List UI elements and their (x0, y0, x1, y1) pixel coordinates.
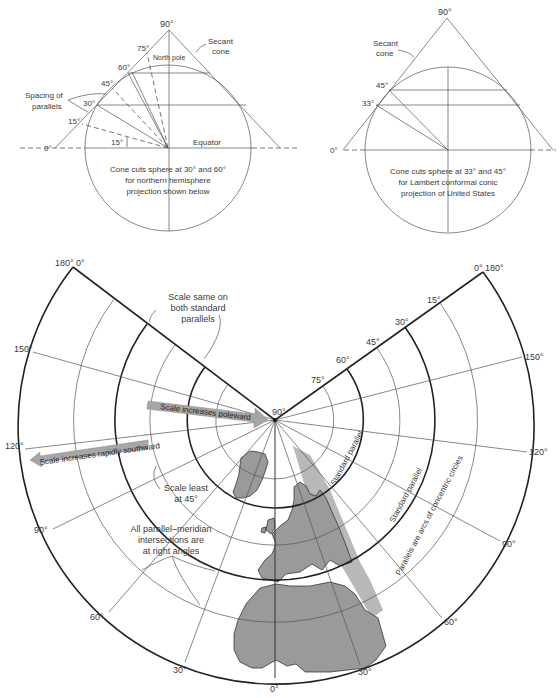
label-90: 90° (438, 7, 452, 17)
caption-line-1: Cone cuts sphere at 30° and 60° (110, 165, 226, 174)
leader-scale-least (154, 466, 160, 489)
radius-30 (97, 105, 168, 148)
radius-60 (128, 73, 168, 148)
label-0: 0° (44, 144, 52, 153)
radius-60b (132, 72, 168, 148)
annotation-right-angles-2: intersections are (138, 535, 204, 545)
parallel-label-45: 45° (366, 337, 380, 347)
secant-cone-diagram-northern-hemisphere: 90° 75° 60° 45° 30° 15° 0° 15° North pol… (20, 19, 300, 231)
conic-projection-figure: 90° 75° 60° 45° 30° 15° 0° 15° North pol… (0, 0, 560, 698)
meridian-label-0: 0° (270, 684, 279, 694)
annotation-scale-least-1: Scale least (164, 483, 209, 493)
annotation-right-angles-3: at right angles (143, 546, 200, 556)
meridian-label-30-right: 30° (358, 667, 372, 677)
pole-point (273, 418, 277, 422)
radius-75 (147, 53, 168, 148)
conic-projection-map: Scale increases poleward Scale increases… (5, 258, 548, 694)
parallel-label-75: 75° (311, 375, 325, 385)
caption-line-2: for northern hemisphere (125, 176, 211, 185)
label-45: 45° (101, 79, 113, 88)
secant-arrow (196, 44, 206, 52)
secant-arrow (398, 50, 414, 57)
label-concentric-arcs: Parallels are arcs of concentric circles (394, 454, 465, 577)
label-60: 60° (118, 63, 130, 72)
meridian-label-120-left: 120° (5, 441, 24, 451)
secant-cone-outline (55, 30, 280, 148)
cone-label: cone (212, 47, 230, 56)
meridian-label-60-left: 60° (90, 612, 104, 622)
spacing-of-label: Spacing of (25, 91, 64, 100)
equator-label: Equator (193, 138, 221, 147)
meridian-150-right (275, 357, 522, 420)
radius-15 (82, 124, 168, 148)
label-90: 90° (160, 19, 174, 29)
secant-cone-diagram-united-states: 90° 45° 33° 0° Secant cone Cone cuts sph… (330, 7, 556, 233)
caption-line-3: projection shown below (126, 187, 209, 196)
meridian-120-right (275, 420, 527, 452)
annotation-right-angles-1: All parallel–meridian (130, 524, 211, 534)
meridian-label-90-left: 90° (34, 525, 48, 535)
parallel-label-30: 30° (395, 317, 409, 327)
label-75: 75° (137, 44, 149, 53)
label-15: 15° (68, 117, 80, 126)
leader-scale-same-left (149, 310, 156, 322)
leader-right-angle-3 (172, 556, 200, 605)
cone-label: cone (376, 49, 394, 58)
label-angle-15: 15° (111, 138, 123, 147)
greenland (233, 451, 268, 498)
right-apex-label: 0° 180° (474, 263, 504, 273)
british-isles (261, 518, 275, 534)
label-33: 33° (362, 99, 374, 108)
radius-33 (376, 105, 448, 150)
label-45: 45° (376, 81, 388, 90)
meridian-label-120-right: 120° (529, 447, 548, 457)
meridian-label-150-right: 150° (525, 352, 544, 362)
meridian-label-90-right: 90° (502, 539, 516, 549)
label-30: 30° (83, 99, 95, 108)
radius-45 (389, 90, 448, 150)
caption-line-2: for Lambert conformal conic (398, 178, 497, 187)
annotation-scale-same-3: parallels (181, 314, 215, 324)
poleward-arrow: Scale increases poleward (147, 401, 268, 428)
label-standard-parallel-inner: Standard parallel (329, 429, 365, 487)
parallel-label-15: 15° (427, 295, 441, 305)
annotation-scale-least-2: at 45° (174, 494, 198, 504)
leader-right-angle-1 (142, 556, 172, 570)
annotation-scale-same-1: Scale same on (168, 292, 228, 302)
caption-line-1: Cone cuts sphere at 33° and 45° (390, 167, 506, 176)
parallel-label-60: 60° (336, 355, 350, 365)
secant-label: Secant (208, 37, 234, 46)
north-pole-label: North pole (153, 54, 185, 62)
caption-line-3: projection of United States (401, 189, 495, 198)
left-boundary-meridian (73, 267, 275, 420)
secant-label: Secant (373, 39, 399, 48)
label-0: 0° (330, 146, 338, 155)
southward-arrow: Scale increases rapidly southward (30, 440, 161, 467)
pole-label: 90° (272, 407, 286, 417)
label-standard-parallel-outer: Standard parallel (388, 466, 424, 524)
meridian-label-150-left: 150° (14, 344, 33, 354)
left-apex-label: 180° 0° (55, 258, 85, 268)
meridian-label-30-left: 30° (173, 665, 187, 675)
parallels-label: parallels (32, 102, 62, 111)
annotation-scale-same-2: both standard (170, 303, 225, 313)
meridian-label-60-right: 60° (444, 617, 458, 627)
poleward-arrow-label: Scale increases poleward (160, 402, 252, 422)
